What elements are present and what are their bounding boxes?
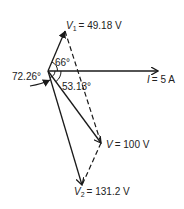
angle-label-66: 66°: [55, 57, 70, 68]
angle-label-72: 72.26°: [12, 71, 41, 82]
dashed-v-to-v2: [82, 143, 101, 185]
phasor-diagram: V1= 49.18 V I= 5 A V= 100 V V2= 131.2 V …: [0, 0, 184, 209]
label-v2: V2= 131.2 V: [74, 186, 130, 198]
angle-label-53: 53.13°: [62, 81, 91, 92]
angle-arc-53: [56, 71, 61, 82]
label-v1: V1= 49.18 V: [66, 20, 122, 32]
label-i: I= 5 A: [147, 74, 175, 85]
label-v: V= 100 V: [106, 139, 150, 150]
